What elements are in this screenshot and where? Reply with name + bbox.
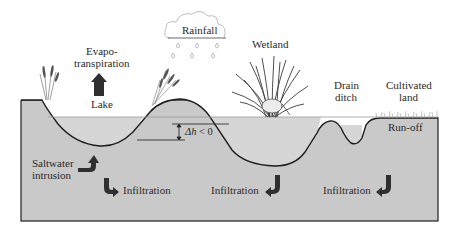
saltwater-intrusion-label-line2: intrusion [32,169,72,181]
wetland-label: Wetland [252,38,289,50]
saltwater-intrusion-label-line1: Saltwater [32,157,74,169]
runoff-label: Run-off [388,121,423,133]
cultivated-land-label-line2: land [399,91,418,103]
wetland-bird-icon [262,99,282,113]
rainfall-label: Rainfall [182,24,217,36]
evapotranspiration-label-line1: Evapo- [86,45,118,57]
delta-h-rest: < 0 [196,126,212,137]
infiltration-label-3: Infiltration [323,184,371,196]
delta-h-symbol: Δh [184,126,196,137]
infiltration-label-1: Infiltration [123,184,171,196]
infiltration-label-2: Infiltration [211,184,259,196]
drain-ditch-label-line1: Drain [334,79,360,91]
drain-ditch-label-line2: ditch [335,91,357,103]
cultivated-land-label-line1: Cultivated [386,79,432,91]
evapotranspiration-label-line2: transpiration [74,57,130,69]
delta-h-label: Δh < 0 [184,126,213,137]
wetland-hydrology-diagram: Δh < 0 Rainfall Evapo- transpiration Lak… [0,0,455,232]
lake-label: Lake [91,98,113,110]
